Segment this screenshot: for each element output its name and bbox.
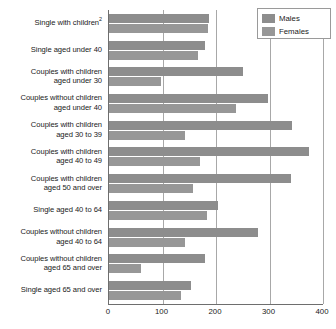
bar-males: [109, 67, 243, 76]
legend-swatch-females-icon: [262, 27, 275, 36]
bar-females: [109, 291, 181, 300]
legend-item-females: Females: [262, 25, 327, 37]
bar-females: [109, 157, 200, 166]
category-label: Single aged 40 to 64: [0, 205, 102, 215]
bar-females: [109, 104, 236, 113]
category-label: Couples with childrenaged 50 and over: [0, 174, 102, 193]
legend-label-males: Males: [279, 14, 300, 23]
legend-item-males: Males: [262, 12, 327, 24]
bar-group: [109, 144, 322, 171]
bar-group: [109, 117, 322, 144]
bar-males: [109, 281, 191, 290]
gridline-400: [323, 10, 324, 304]
bar-males: [109, 121, 292, 130]
category-label: Couples without childrenaged 65 and over: [0, 254, 102, 273]
plot-area: [108, 10, 322, 304]
bar-females: [109, 264, 141, 273]
category-label: Couples with childrenaged 40 to 49: [0, 147, 102, 166]
category-labels: Single with children2Single aged under 4…: [0, 10, 105, 304]
category-label: Single aged under 40: [0, 45, 102, 55]
bar-males: [109, 147, 309, 156]
bar-group: [109, 251, 322, 278]
x-tick-400: 400: [315, 307, 328, 316]
bar-chart: Single with children2Single aged under 4…: [0, 0, 336, 329]
bar-group: [109, 63, 322, 90]
bar-group: [109, 197, 322, 224]
x-tick-200: 200: [208, 307, 221, 316]
bar-group: [109, 224, 322, 251]
legend-swatch-males-icon: [262, 14, 275, 23]
x-axis-line: [108, 304, 323, 305]
bar-group: [109, 170, 322, 197]
bar-males: [109, 254, 205, 263]
bar-males: [109, 201, 218, 210]
category-label: Couples with childrenaged under 30: [0, 67, 102, 86]
category-label: Single aged 65 and over: [0, 285, 102, 295]
x-axis-tick-labels: 0100200300400: [0, 307, 336, 325]
bar-males: [109, 41, 205, 50]
x-tick-0: 0: [106, 307, 110, 316]
bar-group: [109, 277, 322, 304]
bar-rows: [109, 10, 322, 304]
bar-females: [109, 184, 193, 193]
bar-females: [109, 211, 207, 220]
category-label: Couples without childrenaged 40 to 64: [0, 227, 102, 246]
bar-males: [109, 14, 209, 23]
bar-males: [109, 174, 291, 183]
bar-group: [109, 90, 322, 117]
category-label: Single with children2: [0, 18, 102, 28]
category-label: Couples with childrenaged 30 to 39: [0, 120, 102, 139]
x-tick-100: 100: [155, 307, 168, 316]
legend-label-females: Females: [279, 27, 309, 36]
category-label: Couples without childrenaged under 40: [0, 93, 102, 112]
bar-females: [109, 131, 185, 140]
bar-males: [109, 94, 268, 103]
bar-females: [109, 51, 198, 60]
bar-females: [109, 238, 185, 247]
bar-males: [109, 228, 258, 237]
bar-females: [109, 77, 161, 86]
bar-females: [109, 24, 208, 33]
bar-group: [109, 37, 322, 64]
chart-legend: Males Females: [257, 8, 331, 39]
x-tick-300: 300: [262, 307, 275, 316]
